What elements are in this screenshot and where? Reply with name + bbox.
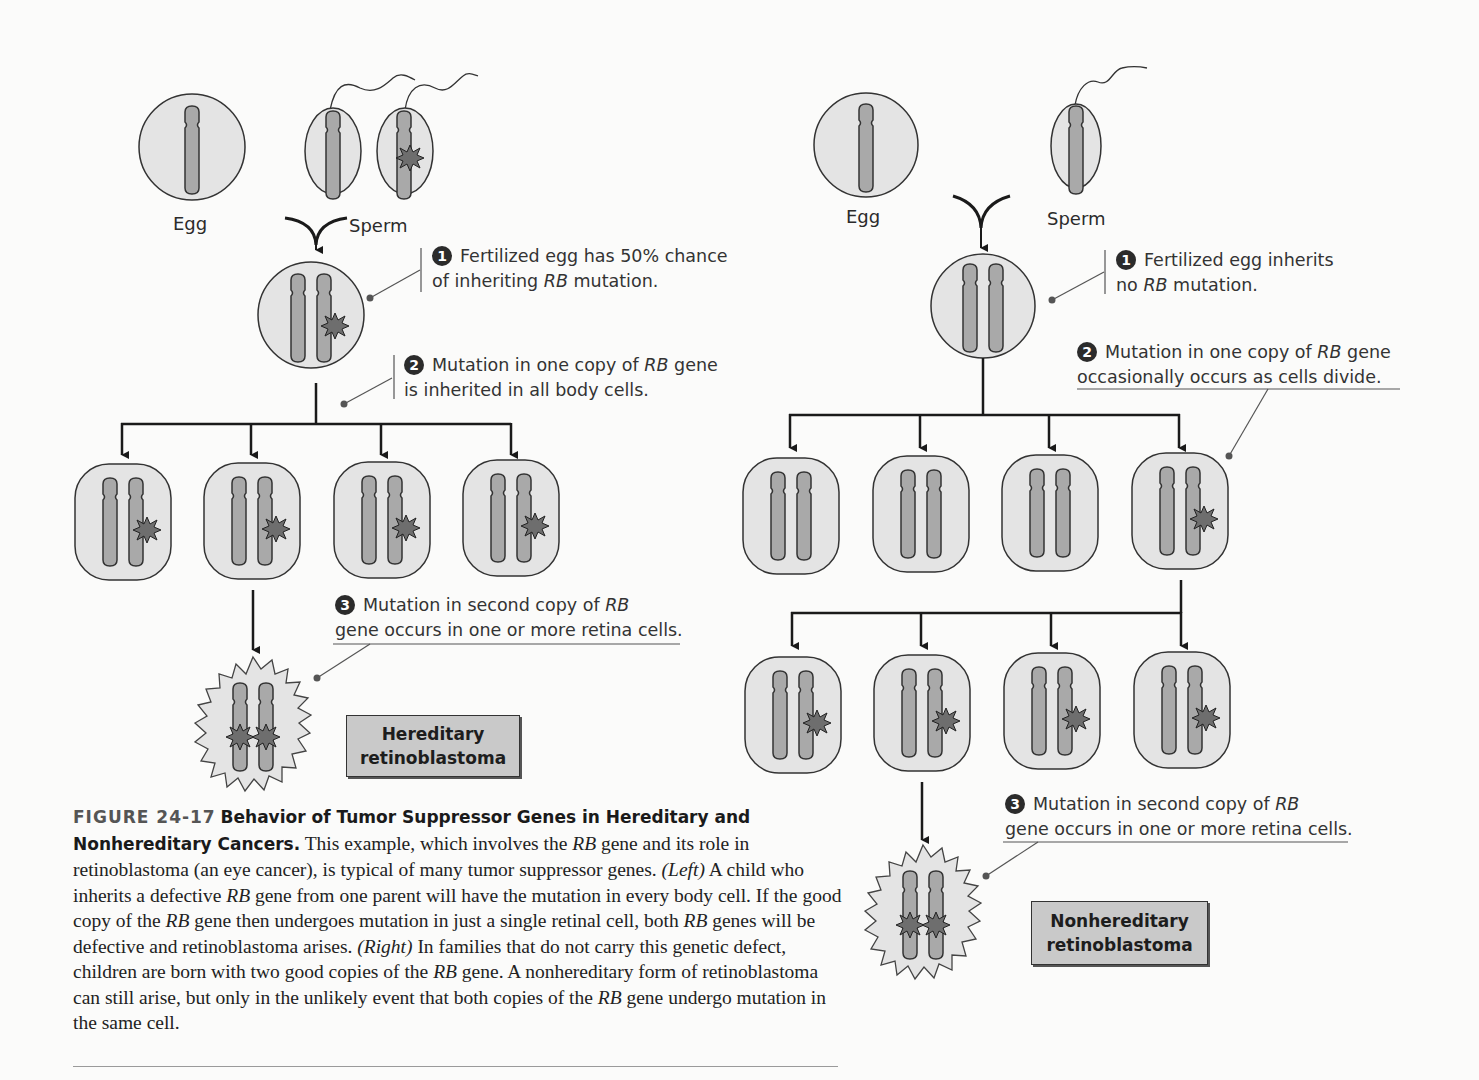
- gene-name: RB: [166, 910, 190, 931]
- outcome-label: Hereditary: [347, 722, 519, 746]
- gene-name: RB: [1317, 342, 1341, 362]
- step-text: mutation.: [568, 271, 658, 291]
- sperm-label-right: Sperm: [1047, 210, 1106, 228]
- egg-cell-left: [139, 94, 245, 200]
- step-text: gene occurs in one or more retina cells.: [335, 620, 683, 640]
- caption-panel-ref: (Left): [662, 859, 705, 880]
- step-3-left: 3Mutation in second copy of RB gene occu…: [335, 593, 683, 643]
- outcome-label: Nonhereditary: [1032, 909, 1207, 933]
- step-number-badge: 3: [335, 595, 355, 615]
- daughter-cell-right-4: [1134, 652, 1230, 768]
- egg-label-left: Egg: [173, 215, 207, 233]
- step-text: no: [1116, 275, 1143, 295]
- step-3-right: 3Mutation in second copy of RB gene occu…: [1005, 792, 1353, 842]
- gene-name: RB: [684, 910, 708, 931]
- step-text: Mutation in one copy of: [432, 355, 644, 375]
- gene-name: RB: [1143, 275, 1167, 295]
- step-text: Fertilized egg inherits: [1144, 250, 1334, 270]
- daughter-cell-right-3: [1004, 653, 1100, 769]
- gene-name: RB: [226, 885, 250, 906]
- egg-label-right: Egg: [846, 208, 880, 226]
- gene-name: RB: [1275, 794, 1299, 814]
- step-text: Mutation in second copy of: [363, 595, 605, 615]
- left-panel-diagram: [75, 74, 680, 791]
- step-2-right: 2Mutation in one copy of RB gene occasio…: [1077, 340, 1391, 390]
- step-number-badge: 1: [1116, 250, 1136, 270]
- step-2-left: 2Mutation in one copy of RB gene is inhe…: [404, 353, 718, 403]
- body-cell-right-2: [873, 456, 969, 572]
- body-cell-left-1: [75, 464, 171, 580]
- step-text: gene: [1341, 342, 1390, 362]
- figure-number: FIGURE 24-17: [73, 807, 216, 827]
- tumor-cell-left: [195, 657, 311, 791]
- outcome-box-nonhereditary: Nonhereditary retinoblastoma: [1031, 901, 1208, 965]
- body-cell-left-3: [334, 462, 430, 578]
- gene-name: RB: [598, 987, 622, 1008]
- sperm-cell-mutated-left: [377, 74, 478, 199]
- gene-name: RB: [605, 595, 629, 615]
- step-text: occasionally occurs as cells divide.: [1077, 367, 1382, 387]
- gene-name: RB: [433, 961, 457, 982]
- caption-text: This example, which involves the: [300, 833, 572, 854]
- daughter-cell-right-2: [874, 655, 970, 771]
- body-cell-left-2: [204, 463, 300, 579]
- step-text: Mutation in one copy of: [1105, 342, 1317, 362]
- step-number-badge: 2: [404, 355, 424, 375]
- daughter-cell-right-1: [745, 657, 841, 773]
- step-text: of inheriting: [432, 271, 544, 291]
- outcome-label: retinoblastoma: [1032, 933, 1207, 957]
- outcome-box-hereditary: Hereditary retinoblastoma: [346, 715, 520, 777]
- step-text: gene: [668, 355, 717, 375]
- body-cell-left-4: [463, 460, 559, 576]
- step-number-badge: 2: [1077, 342, 1097, 362]
- step-text: is inherited in all body cells.: [404, 380, 649, 400]
- fertilized-egg-right: [931, 254, 1035, 358]
- caption-text: gene then undergoes mutation in just a s…: [189, 910, 683, 931]
- tumor-cell-right: [865, 845, 981, 979]
- caption-panel-ref: (Right): [357, 936, 412, 957]
- body-cell-right-4-mutated: [1132, 453, 1228, 569]
- gene-name: RB: [644, 355, 668, 375]
- step-text: mutation.: [1168, 275, 1258, 295]
- step-number-badge: 1: [432, 246, 452, 266]
- body-cell-right-1: [743, 458, 839, 574]
- step-text: gene occurs in one or more retina cells.: [1005, 819, 1353, 839]
- egg-cell-right: [814, 93, 918, 197]
- step-text: Mutation in second copy of: [1033, 794, 1275, 814]
- outcome-label: retinoblastoma: [347, 746, 519, 770]
- gene-name: RB: [544, 271, 568, 291]
- step-1-left: 1Fertilized egg has 50% chance of inheri…: [432, 244, 728, 294]
- step-1-right: 1Fertilized egg inherits no RB mutation.: [1116, 248, 1334, 298]
- body-cell-right-3: [1002, 455, 1098, 571]
- step-text: Fertilized egg has 50% chance: [460, 246, 728, 266]
- figure-caption: FIGURE 24-17 Behavior of Tumor Suppresso…: [73, 804, 843, 1036]
- caption-divider: [73, 1066, 838, 1067]
- fusion-arrow-right: [953, 196, 1010, 228]
- sperm-cell-right: [1051, 67, 1147, 195]
- sperm-label-left: Sperm: [349, 217, 408, 235]
- gene-name: RB: [572, 833, 596, 854]
- step-number-badge: 3: [1005, 794, 1025, 814]
- fertilized-egg-left: [258, 262, 364, 368]
